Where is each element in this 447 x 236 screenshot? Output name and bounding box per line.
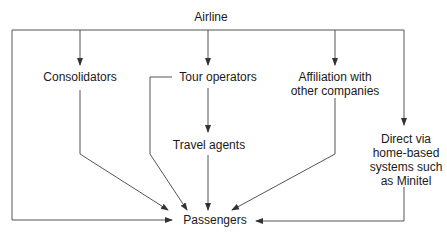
direct-label-line1: Direct via [370,132,443,146]
travel-agents-label: Travel agents [173,138,245,152]
node-airline: Airline [194,10,227,24]
node-tour-operators: Tour operators [179,70,256,84]
tour-operators-label: Tour operators [179,70,256,84]
node-affiliation: Affiliation with other companies [291,70,380,98]
node-passengers: Passengers [183,213,246,227]
node-consolidators: Consolidators [43,70,116,84]
airline-label: Airline [194,10,227,24]
direct-label-line4: as Minitel [370,174,443,188]
node-travel-agents: Travel agents [173,138,245,152]
node-direct: Direct via home-based systems such as Mi… [370,132,443,188]
consolidators-label: Consolidators [43,70,116,84]
passengers-label: Passengers [183,213,246,227]
connector-lines [0,0,447,236]
affiliation-label-line1: Affiliation with [291,70,380,84]
affiliation-label-line2: other companies [291,84,380,98]
direct-label-line3: systems such [370,160,443,174]
direct-label-line2: home-based [370,146,443,160]
distribution-diagram: Airline Consolidators Tour operators Aff… [0,0,447,236]
